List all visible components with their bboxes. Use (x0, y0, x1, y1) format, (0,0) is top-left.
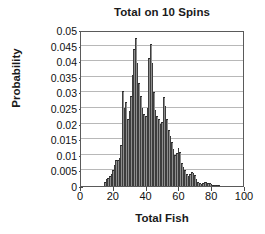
chart-title: Total on 10 Spins (80, 6, 244, 18)
x-tick-mark (80, 187, 81, 191)
gridline (81, 91, 243, 92)
gridline (81, 107, 243, 108)
y-tick-label: 0.04 (5, 57, 77, 67)
gridline (81, 76, 243, 77)
x-tick-mark (146, 187, 147, 191)
y-tick-label: 0.01 (5, 151, 77, 161)
gridline (81, 60, 243, 61)
y-tick-label: 0.015 (5, 135, 77, 145)
gridline (81, 45, 243, 46)
histogram-chart: Total on 10 Spins Probability 00.0050.01… (0, 0, 265, 234)
x-axis-label: Total Fish (80, 212, 244, 224)
y-tick-label: 0.035 (5, 73, 77, 83)
x-tick-mark (178, 187, 179, 191)
y-axis-tick-labels: 00.0050.010.0150.020.0250.030.0350.040.0… (3, 31, 77, 187)
x-tick-mark (244, 187, 245, 191)
y-tick-label: 0.02 (5, 120, 77, 130)
y-tick-label: 0.05 (5, 26, 77, 36)
y-tick-label: 0.025 (5, 104, 77, 114)
y-tick-label: 0.005 (5, 166, 77, 176)
x-tick-label: 100 (224, 190, 264, 202)
x-tick-mark (113, 187, 114, 191)
y-tick-label: 0.03 (5, 88, 77, 98)
bar (219, 185, 221, 186)
x-tick-mark (211, 187, 212, 191)
plot-area (80, 31, 244, 187)
y-tick-label: 0.045 (5, 42, 77, 52)
